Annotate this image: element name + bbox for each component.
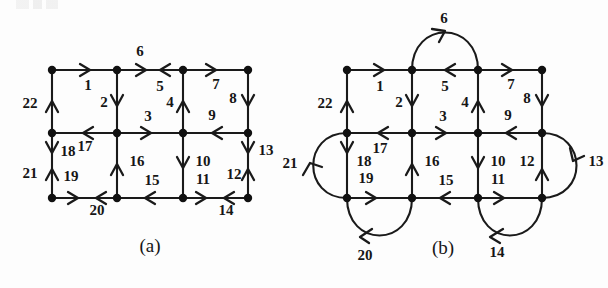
edge-label-5-a: 5 (156, 78, 164, 94)
node-b-r1c0 (343, 129, 351, 137)
panel-b-graph: 1 2 3 4 5 6 7 8 9 10 11 12 13 14 15 16 1… (283, 10, 604, 263)
node-b-r0c2 (474, 66, 482, 74)
edge-label-18-a: 18 (61, 143, 76, 159)
node-a-r1c1 (113, 129, 121, 137)
edge-label-6-b: 6 (440, 10, 448, 26)
edge-label-10-a: 10 (196, 153, 211, 169)
node-a-r2c2 (179, 194, 187, 202)
node-b-r1c1 (408, 129, 416, 137)
node-a-r1c3 (244, 129, 252, 137)
edge-label-14-b: 14 (490, 244, 506, 260)
edge-label-21-b: 21 (283, 155, 298, 171)
edge-label-11-a: 11 (196, 171, 210, 187)
node-b-r0c1 (408, 66, 416, 74)
node-a-r0c2 (179, 66, 187, 74)
node-a-r2c3 (244, 194, 252, 202)
edge-label-11-b: 11 (491, 171, 505, 187)
edge-label-18-b: 18 (357, 153, 372, 169)
edge-label-16-b: 16 (425, 153, 441, 169)
caption-b: (b) (432, 237, 454, 259)
edge-label-8-a: 8 (229, 90, 237, 106)
node-b-r1c3 (538, 129, 546, 137)
node-a-r1c0 (48, 129, 56, 137)
node-a-r0c3 (244, 66, 252, 74)
edge-label-7-a: 7 (212, 76, 220, 92)
node-a-r0c1 (113, 66, 121, 74)
edge-label-8-b: 8 (523, 90, 531, 106)
arrowhead-edge-14-b (490, 229, 503, 243)
edge-label-12-b: 12 (520, 153, 535, 169)
node-b-r2c0 (343, 194, 351, 202)
edge-label-15-a: 15 (145, 172, 160, 188)
edge-label-3-a: 3 (144, 108, 152, 124)
edge-label-13-a: 13 (259, 142, 274, 158)
edge-label-2-a: 2 (100, 94, 108, 110)
arc-edge-14-b (478, 198, 542, 236)
edge-label-20-b: 20 (358, 247, 373, 263)
edge-label-9-a: 9 (208, 107, 216, 123)
edge-label-17-b: 17 (373, 140, 389, 156)
panel-a-graph: 1 2 3 4 5 6 7 8 9 10 11 12 13 14 15 16 1… (23, 43, 274, 257)
edge-label-22-b: 22 (318, 95, 333, 111)
edge-label-3-b: 3 (439, 108, 447, 124)
edge-label-13-b: 13 (589, 153, 604, 169)
node-a-r0c0 (48, 66, 56, 74)
arc-edge-13-b (542, 133, 577, 198)
arrowhead-edge-6-b (432, 29, 445, 42)
node-b-r2c1 (408, 194, 416, 202)
edge-label-16-a: 16 (130, 153, 146, 169)
edge-label-1-a: 1 (84, 77, 92, 93)
edge-label-4-a: 4 (166, 94, 174, 110)
node-b-r2c2 (474, 194, 482, 202)
edge-label-9-b: 9 (504, 107, 512, 123)
node-b-r0c3 (538, 66, 546, 74)
edge-label-20-a: 20 (90, 202, 105, 218)
edge-label-19-b: 19 (359, 170, 374, 186)
figure-canvas: 1 2 3 4 5 6 7 8 9 10 11 12 13 14 15 16 1… (0, 0, 608, 288)
edge-label-1-b: 1 (376, 78, 384, 94)
edge-label-21-a: 21 (23, 165, 38, 181)
node-b-r0c0 (343, 66, 351, 74)
edge-label-12-a: 12 (227, 166, 242, 182)
caption-a: (a) (139, 235, 160, 257)
node-a-r1c2 (179, 129, 187, 137)
edge-label-17-a: 17 (78, 138, 94, 154)
edge-label-2-b: 2 (395, 94, 403, 110)
edge-label-6-a: 6 (136, 43, 144, 59)
node-b-r2c3 (538, 194, 546, 202)
node-a-r2c1 (113, 194, 121, 202)
edge-label-10-b: 10 (491, 153, 506, 169)
edge-label-22-a: 22 (23, 95, 38, 111)
node-a-r2c0 (48, 194, 56, 202)
arc-edge-20-b (347, 198, 412, 236)
figure-page: 1 2 3 4 5 6 7 8 9 10 11 12 13 14 15 16 1… (0, 0, 608, 288)
edge-label-15-b: 15 (439, 172, 454, 188)
edge-label-19-a: 19 (64, 168, 79, 184)
edge-label-7-b: 7 (507, 76, 515, 92)
edge-label-4-b: 4 (461, 94, 469, 110)
edge-label-14-a: 14 (219, 202, 235, 218)
arc-edge-6-b (412, 33, 478, 71)
edge-label-5-b: 5 (441, 78, 449, 94)
node-b-r1c2 (474, 129, 482, 137)
